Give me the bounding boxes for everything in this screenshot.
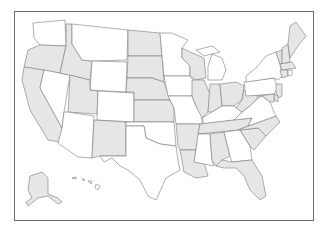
state-nm[interactable]: New Mexico [92, 120, 126, 158]
state-ak[interactable]: Alaska [26, 172, 62, 206]
state-me[interactable]: Maine [288, 22, 306, 58]
state-wa[interactable]: Washington [33, 20, 66, 46]
state-nd[interactable]: North Dakota [128, 30, 162, 56]
state-ia[interactable]: Iowa [164, 76, 196, 96]
state-ri[interactable]: Rhode Island [288, 70, 292, 76]
state-ny[interactable]: New York [246, 52, 282, 82]
state-wy[interactable]: Wyoming [90, 61, 127, 92]
state-az[interactable]: Arizona [58, 112, 94, 158]
us-map: WashingtonOregonCaliforniaNevadaIdahoMon… [0, 0, 325, 230]
state-mt[interactable]: Montana [72, 24, 128, 61]
state-ks[interactable]: Kansas [134, 100, 174, 122]
state-hi[interactable]: Hawaii [72, 177, 100, 190]
state-co[interactable]: Colorado [97, 91, 134, 122]
state-fl[interactable]: Florida [216, 160, 266, 200]
